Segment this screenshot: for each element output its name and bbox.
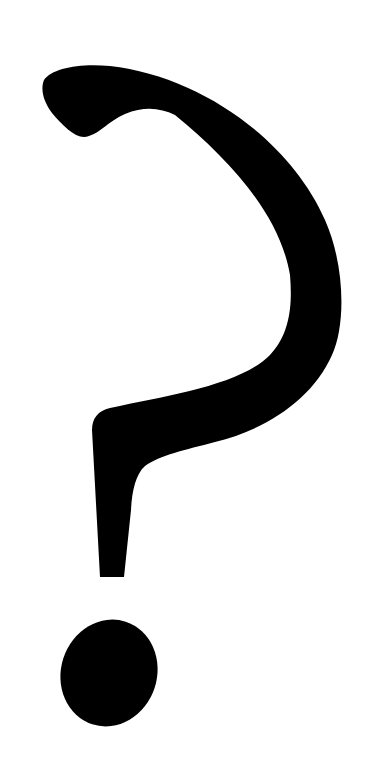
question-mark-curve [42,65,341,577]
question-mark-canvas: ? [0,0,368,779]
question-mark-icon [0,0,368,779]
question-mark-dot [47,607,172,739]
